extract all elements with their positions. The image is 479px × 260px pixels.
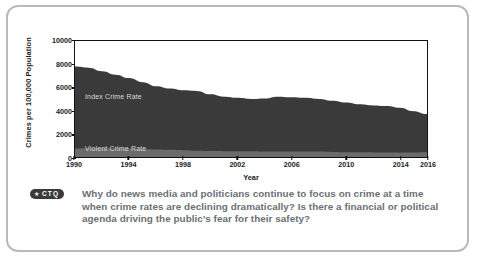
x-tick-mark: [346, 156, 347, 160]
star-icon: ★: [34, 191, 39, 197]
x-tick-mark: [182, 156, 183, 160]
x-tick-label: 2002: [229, 160, 245, 169]
y-axis-ticks: 0200040006000800010000: [40, 40, 72, 158]
x-axis-ticks: 19901994199820022006201020142016: [74, 160, 428, 172]
critical-thinking-question: ★ CTQ Why do news media and politicians …: [30, 188, 451, 226]
x-tick-mark: [400, 156, 401, 160]
y-axis-label-text: Crimes per 100,000 Population: [24, 37, 33, 148]
y-tick-label: 10000: [38, 36, 72, 45]
ctq-badge-label: CTQ: [42, 191, 59, 198]
y-tick-label: 2000: [38, 130, 72, 139]
x-tick-mark: [427, 156, 428, 160]
x-tick-label: 2010: [338, 160, 354, 169]
plot-area-wrapper: 0200040006000800010000 Index Crime Rate …: [40, 27, 432, 159]
x-tick-label: 1998: [175, 160, 191, 169]
y-tick-label: 6000: [38, 83, 72, 92]
y-tick-label: 4000: [38, 106, 72, 115]
x-tick-mark: [128, 156, 129, 160]
x-axis-label: Year: [74, 173, 428, 182]
index-crime-rate-area: [75, 67, 427, 157]
x-tick-label: 1990: [66, 160, 82, 169]
question-text: Why do news media and politicians contin…: [82, 188, 451, 226]
x-tick-label: 2014: [393, 160, 409, 169]
ctq-badge: ★ CTQ: [30, 189, 64, 199]
x-tick-label: 2006: [284, 160, 300, 169]
violent-crime-rate-series-label: Violent Crime Rate: [85, 145, 146, 152]
crime-rate-chart: Crimes per 100,000 Population 0200040006…: [22, 19, 452, 179]
y-tick-label: 8000: [38, 59, 72, 68]
plot-axes: Index Crime Rate Violent Crime Rate: [74, 40, 428, 158]
x-tick-label: 1994: [120, 160, 136, 169]
x-tick-mark: [73, 156, 74, 160]
x-tick-label: 2016: [420, 160, 436, 169]
x-tick-mark: [291, 156, 292, 160]
y-axis-label: Crimes per 100,000 Population: [20, 27, 36, 157]
x-tick-mark: [237, 156, 238, 160]
figure-frame: Crimes per 100,000 Population 0200040006…: [6, 5, 469, 252]
index-crime-rate-series-label: Index Crime Rate: [85, 93, 142, 100]
